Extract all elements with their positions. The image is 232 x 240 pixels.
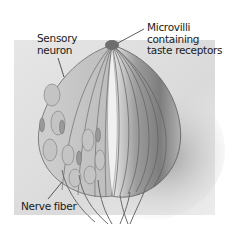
- microvilli-cluster: [105, 40, 119, 50]
- label-nerve-fiber: Nerve fiber: [21, 201, 76, 213]
- label-microvilli: Microvilli containing taste receptors: [147, 22, 222, 57]
- label-sensory-neuron: Sensory neuron: [37, 33, 77, 56]
